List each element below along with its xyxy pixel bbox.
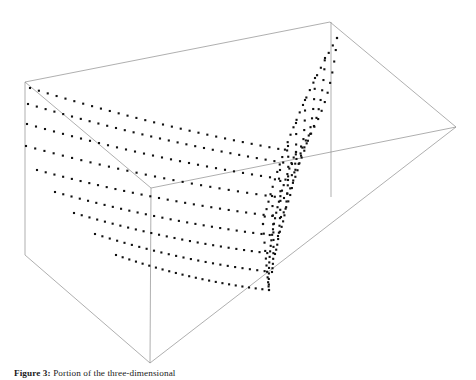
curve-point: [89, 140, 91, 142]
curve-point: [294, 163, 296, 165]
curve-point: [114, 188, 116, 190]
curve-point: [279, 169, 281, 171]
curve-point: [172, 179, 174, 181]
curve-point: [197, 241, 199, 243]
curve-point: [215, 281, 217, 283]
curve-point: [143, 230, 145, 232]
curve-point: [104, 204, 106, 206]
curve-point: [132, 192, 134, 194]
curve-point: [287, 184, 289, 186]
ridge-point: [289, 134, 291, 136]
curve-point: [80, 180, 82, 182]
ridge-point: [324, 59, 326, 61]
ridge-point: [270, 245, 272, 247]
ridge-point: [272, 228, 274, 230]
curve-point: [259, 145, 261, 147]
curve-point: [279, 209, 281, 211]
curve-point: [256, 269, 258, 271]
curve-point: [81, 214, 83, 216]
curve-point: [278, 232, 280, 234]
curve-point: [249, 268, 251, 270]
curve-point: [206, 165, 208, 167]
curve-point: [243, 249, 245, 251]
ridge-point: [281, 190, 283, 192]
curve-point: [82, 103, 84, 105]
curve-point: [286, 149, 288, 151]
curve-point: [197, 259, 199, 261]
curve-point: [241, 267, 243, 269]
ridge-point: [268, 283, 270, 285]
curve-point: [233, 139, 235, 141]
curve-point: [221, 150, 223, 152]
curve-point: [314, 77, 316, 79]
curve-point: [73, 100, 75, 102]
ridge-point: [270, 239, 272, 241]
ridge-point: [266, 208, 268, 210]
curve-point: [237, 190, 239, 192]
curve-point: [265, 194, 267, 196]
curve-point: [278, 225, 280, 227]
curve-point: [131, 244, 133, 246]
curve-point: [318, 108, 320, 110]
curve-point: [209, 186, 211, 188]
curve-point: [38, 90, 40, 92]
ridge-point: [276, 206, 278, 208]
curve-point: [292, 179, 294, 181]
curve-point: [228, 283, 230, 285]
curve-point: [272, 252, 274, 254]
curve-point: [285, 200, 287, 202]
curve-point: [256, 157, 258, 159]
curve-point: [133, 131, 135, 133]
curve-point: [135, 117, 137, 119]
curve-point: [331, 71, 333, 73]
curve-point: [168, 253, 170, 255]
curve-point: [233, 170, 235, 172]
curve-point: [155, 267, 157, 269]
curve-point: [228, 189, 230, 191]
curve-point: [263, 242, 265, 244]
curve-point: [104, 221, 106, 223]
ridge-point: [279, 163, 281, 165]
curve-point: [115, 127, 117, 129]
curve-point: [184, 202, 186, 204]
curve-point: [277, 148, 279, 150]
ridge-point: [287, 141, 289, 143]
curve-point: [56, 95, 58, 97]
curve-point: [235, 284, 237, 286]
curve-point: [283, 214, 285, 216]
curve-point: [134, 150, 136, 152]
frame-edge: [25, 22, 330, 82]
curve-point: [309, 126, 311, 128]
curve-point: [287, 145, 289, 147]
curve-point: [268, 285, 270, 287]
ridge-point: [279, 195, 281, 197]
curve-point: [273, 160, 275, 162]
curve-point: [291, 187, 293, 189]
curve-point: [112, 223, 114, 225]
curve-point: [166, 235, 168, 237]
curve-point: [271, 205, 273, 207]
curve-point: [312, 108, 314, 110]
ridge-point: [268, 261, 270, 263]
curve-point: [36, 106, 38, 108]
curve-point: [148, 265, 150, 267]
curve-point: [203, 224, 205, 226]
curve-point: [287, 200, 289, 202]
curve-point: [255, 193, 257, 195]
curve-point: [212, 149, 214, 151]
curve-point: [236, 210, 238, 212]
curve-point: [88, 182, 90, 184]
curve-point: [135, 228, 137, 230]
curve-point: [272, 263, 274, 265]
curve-point: [167, 199, 169, 201]
curve-point: [97, 184, 99, 186]
curve-point: [265, 258, 267, 260]
curve-point: [27, 103, 29, 105]
curve-point: [301, 157, 303, 159]
curve-point: [327, 92, 329, 94]
curve-point: [188, 275, 190, 277]
curve-point: [302, 138, 304, 140]
ridge-point: [262, 223, 264, 225]
curve-point: [175, 200, 177, 202]
curve-point: [154, 175, 156, 177]
